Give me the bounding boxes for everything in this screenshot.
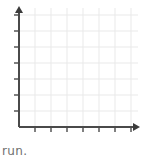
plot-background	[0, 0, 143, 140]
coordinate-grid-graph	[0, 0, 143, 140]
graph-svg	[0, 0, 143, 140]
caption-row: run.	[0, 146, 143, 162]
figure-root: run.	[0, 0, 143, 162]
caption-label: run.	[2, 146, 28, 158]
